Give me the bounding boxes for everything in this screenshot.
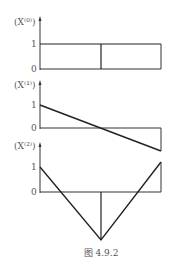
tick-one: 1: [31, 162, 37, 172]
tick-zero: 0: [31, 187, 37, 197]
figure-caption: 图 4.9.2: [84, 248, 119, 258]
arrow-up-icon: [39, 142, 42, 147]
panel-x1-label: (X⁽¹⁾): [14, 80, 35, 90]
panel-x2: (X⁽²⁾) 1 0: [14, 141, 161, 240]
arrow-up-icon: [39, 16, 42, 21]
panel-x0: (X⁽⁰⁾) 1 0: [14, 16, 161, 74]
tick-zero: 0: [31, 64, 37, 74]
tick-one: 1: [31, 39, 37, 49]
tick-zero: 0: [31, 123, 37, 133]
figure-canvas: (X⁽⁰⁾) 1 0 (X⁽¹⁾) 1 0 (X⁽²⁾) 1 0 图 4.9.2: [0, 0, 175, 261]
tick-one: 1: [31, 100, 37, 110]
panel-x0-label: (X⁽⁰⁾): [14, 17, 35, 27]
panel-x1: (X⁽¹⁾) 1 0: [14, 80, 161, 151]
arrow-up-icon: [39, 80, 42, 85]
panel-x2-label: (X⁽²⁾): [14, 141, 35, 151]
